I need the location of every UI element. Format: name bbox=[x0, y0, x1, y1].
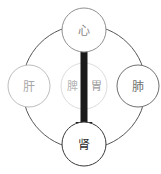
node-label-lung: 肺 bbox=[132, 80, 144, 94]
diagram-canvas: 脾 胃 心 肝 肺 肾 bbox=[0, 0, 161, 174]
node-label-liver: 肝 bbox=[23, 80, 35, 94]
node-label-heart: 心 bbox=[78, 24, 90, 38]
organ-relationship-diagram: 脾 胃 心 肝 肺 肾 bbox=[0, 0, 161, 174]
node-label-stomach: 胃 bbox=[91, 80, 102, 93]
node-label-kidney: 肾 bbox=[78, 138, 90, 152]
arrow-shaft bbox=[81, 50, 88, 125]
node-label-spleen: 脾 bbox=[67, 79, 78, 93]
